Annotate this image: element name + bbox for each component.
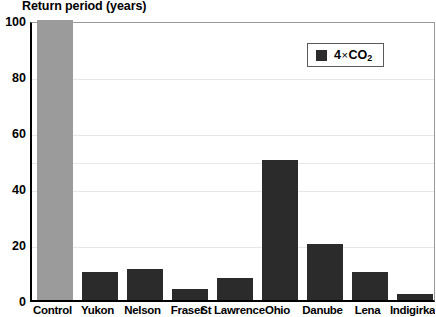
bar-fraser[interactable] — [172, 289, 208, 300]
x-tick-label: Lena — [355, 304, 381, 316]
legend: 4×CO2 — [307, 43, 384, 67]
bar-control[interactable] — [37, 20, 73, 300]
x-tick-label: Nelson — [124, 304, 161, 316]
x-tick-label: St Lawrence — [200, 304, 264, 316]
bar-indigirka[interactable] — [397, 294, 433, 300]
legend-swatch-4xco2 — [316, 50, 327, 61]
chart-figure: Return period (years) 020406080100 Contr… — [0, 0, 436, 317]
y-tick-label: 60 — [12, 127, 26, 141]
y-tick-label: 40 — [12, 183, 26, 197]
y-tick-label: 20 — [12, 239, 26, 253]
bar-lena[interactable] — [352, 272, 388, 300]
x-axis: ControlYukonNelsonFraserSt LawrenceOhioD… — [30, 304, 435, 317]
y-tick-label: 100 — [5, 15, 26, 29]
y-tick-label: 0 — [19, 295, 26, 309]
bar-danube[interactable] — [307, 244, 343, 300]
x-tick-label: Fraser — [171, 304, 204, 316]
x-tick-label: Indigirka — [390, 304, 435, 316]
x-tick-label: Danube — [302, 304, 342, 316]
x-tick-label: Control — [33, 304, 72, 316]
y-axis: 020406080100 — [0, 0, 30, 317]
y-tick-label: 80 — [12, 71, 26, 85]
bar-nelson[interactable] — [127, 269, 163, 300]
bar-yukon[interactable] — [82, 272, 118, 300]
page-title: Return period (years) — [22, 0, 146, 13]
bar-ohio[interactable] — [262, 160, 298, 300]
bar-st-lawrence[interactable] — [217, 278, 253, 300]
x-tick-label: Ohio — [265, 304, 290, 316]
x-tick-label: Yukon — [81, 304, 114, 316]
legend-label-4xco2: 4×CO2 — [334, 48, 372, 62]
